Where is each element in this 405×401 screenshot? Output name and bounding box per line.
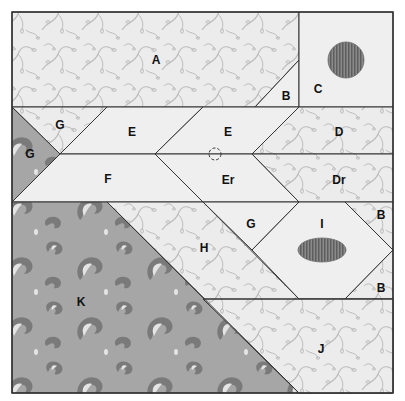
label-I: I <box>320 218 323 230</box>
label-J: J <box>318 343 325 355</box>
label-H: H <box>200 242 209 254</box>
applique-circle <box>328 42 364 78</box>
label-G-upper: G <box>55 119 64 131</box>
label-G-mid: G <box>246 218 255 230</box>
label-B-top: B <box>282 90 291 102</box>
label-Dr: Dr <box>332 174 345 186</box>
label-Er: Er <box>222 174 235 186</box>
label-F: F <box>104 173 111 185</box>
label-E-right: E <box>224 126 232 138</box>
label-D: D <box>335 126 344 138</box>
label-B-right-bottom: B <box>377 282 386 294</box>
label-K: K <box>77 296 86 308</box>
label-E-left: E <box>128 126 136 138</box>
quilt-block-diagram: A B C G G E E D F Er Dr G H I B B K J <box>0 0 405 401</box>
label-B-right-top: B <box>377 209 386 221</box>
label-C: C <box>314 83 323 95</box>
quilt-block-svg <box>0 0 405 401</box>
applique-oval <box>298 238 346 262</box>
label-G-left: G <box>25 148 34 160</box>
label-A: A <box>152 54 161 66</box>
